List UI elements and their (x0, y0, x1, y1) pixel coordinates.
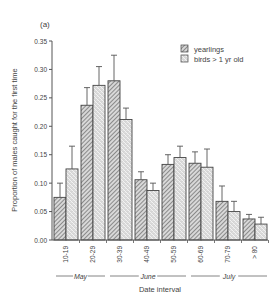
y-tick-label: 0.20 (34, 123, 47, 130)
x-tick-label: 20-29 (89, 246, 96, 263)
x-axis: 10-1920-2930-3940-4950-5960-6970-79> 80M… (52, 240, 269, 281)
bar (147, 191, 159, 240)
bar-chart: (a) 0.000.050.100.150.200.250.300.35 10-… (0, 0, 277, 304)
bar (216, 201, 228, 240)
bar (174, 158, 186, 240)
bar (108, 81, 120, 240)
bar (201, 167, 213, 240)
y-tick-label: 0.05 (34, 208, 47, 215)
x-tick-label: 40-49 (143, 246, 150, 263)
legend-label: yearlings (194, 45, 224, 54)
legend-swatch (181, 45, 188, 52)
bar (93, 85, 105, 240)
y-tick-label: 0.10 (34, 180, 47, 187)
x-tick-label: > 80 (251, 246, 258, 259)
month-label: June (139, 273, 155, 280)
month-label: May (74, 273, 88, 281)
y-tick-label: 0.35 (34, 38, 47, 45)
x-tick-label: 50-59 (170, 246, 177, 263)
bar (120, 119, 132, 240)
bar (54, 197, 66, 240)
month-label: July (222, 273, 236, 281)
x-tick-label: 60-69 (197, 246, 204, 263)
legend-label: birds > 1 yr old (194, 55, 243, 64)
x-tick-label: 70-79 (224, 246, 231, 263)
bar (189, 163, 201, 240)
bar (135, 180, 147, 240)
x-tick-label: 10-19 (62, 246, 69, 263)
y-tick-label: 0.25 (34, 94, 47, 101)
bar (255, 224, 267, 240)
panel-label: (a) (40, 20, 50, 29)
bar (81, 105, 93, 240)
bar (162, 164, 174, 240)
legend: yearlingsbirds > 1 yr old (181, 45, 243, 64)
y-tick-label: 0.00 (34, 237, 47, 244)
x-axis-label: Date interval (139, 285, 181, 294)
bar (243, 219, 255, 240)
x-tick-label: 30-39 (116, 246, 123, 263)
y-tick-label: 0.30 (34, 66, 47, 73)
y-axis-label: Proportion of males caught for the first… (10, 68, 19, 211)
legend-swatch (181, 55, 188, 62)
bar (228, 212, 240, 240)
bar (66, 169, 78, 240)
y-tick-label: 0.15 (34, 151, 47, 158)
bars (54, 55, 267, 240)
y-axis: 0.000.050.100.150.200.250.300.35 (34, 38, 52, 244)
